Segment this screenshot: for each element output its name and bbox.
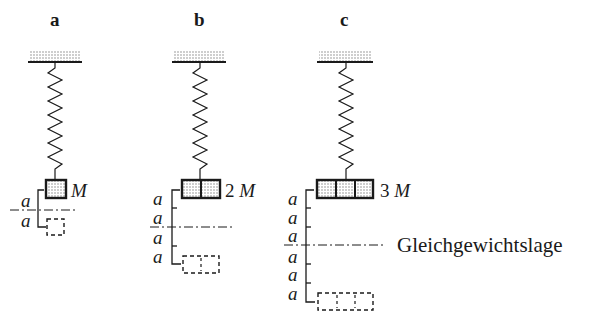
spring-icon (339, 62, 353, 180)
distance-label: a (288, 189, 298, 208)
spring-icon (193, 62, 207, 180)
distance-label: a (288, 265, 298, 284)
mass-block-icon (46, 180, 66, 198)
mass-label-a: M (71, 181, 87, 200)
panel-c (284, 50, 385, 310)
ceiling-stipple-icon (319, 50, 371, 61)
mass-label-b: 2 M (225, 181, 255, 200)
distance-bracket (306, 190, 315, 302)
distance-bracket (38, 190, 46, 227)
mass-block-icon (317, 180, 373, 198)
spring-diagram: a b c M 2 M 3 M a a a a a a a a a a a a … (0, 0, 591, 325)
panel-label-c: c (340, 10, 348, 29)
dashed-mass-icon (47, 219, 64, 235)
distance-label: a (153, 189, 163, 208)
distance-label: a (21, 191, 31, 210)
mass-label-c: 3 M (380, 181, 410, 200)
ceiling-stipple-icon (173, 50, 225, 61)
distance-label: a (288, 284, 298, 303)
dashed-mass-icon (318, 293, 373, 310)
distance-label: a (153, 228, 163, 247)
equilibrium-label: Gleichgewichtslage (397, 235, 563, 256)
distance-label: a (21, 211, 31, 230)
distance-label: a (153, 247, 163, 266)
panel-label-a: a (50, 10, 60, 29)
panel-label-b: b (194, 10, 205, 29)
distance-label: a (288, 226, 298, 245)
ceiling-stipple-icon (29, 50, 81, 61)
distance-label: a (153, 208, 163, 227)
spring-icon (48, 62, 62, 180)
